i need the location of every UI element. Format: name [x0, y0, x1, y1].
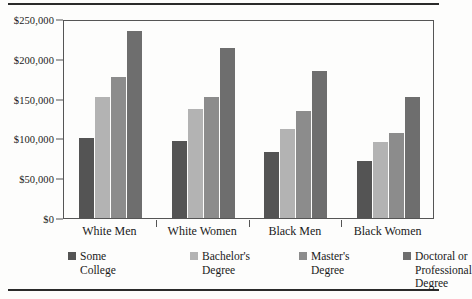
bar[interactable] [357, 161, 372, 218]
y-axis-tick-label: $200,000 [14, 54, 54, 65]
y-axis-tick-mark [56, 99, 63, 100]
y-axis-tick-mark [56, 139, 63, 140]
bar[interactable] [389, 133, 404, 218]
top-rule [8, 3, 439, 5]
x-axis: White MenWhite WomenBlack MenBlack Women [63, 220, 434, 242]
x-axis-group-label: White Women [168, 224, 237, 239]
bar[interactable] [373, 142, 388, 218]
bar[interactable] [405, 97, 420, 218]
x-axis-separator [249, 220, 250, 227]
bar[interactable] [204, 97, 219, 218]
x-axis-group-label: Black Women [354, 224, 422, 239]
legend-swatch-icon [68, 252, 76, 260]
legend-item[interactable]: Master's Degree [299, 250, 349, 277]
y-axis-tick-label: $100,000 [14, 134, 54, 145]
bar-group [250, 21, 343, 218]
bar[interactable] [79, 138, 94, 218]
bar[interactable] [312, 71, 327, 218]
x-axis-separator [341, 220, 342, 227]
bar[interactable] [296, 111, 311, 218]
bar-group [64, 21, 157, 218]
chart-legend: Some CollegeBachelor's DegreeMaster's De… [63, 250, 447, 286]
y-axis-tick-mark [56, 179, 63, 180]
legend-item-label: Master's Degree [311, 250, 349, 277]
y-axis-tick-mark [56, 219, 63, 220]
legend-item[interactable]: Some College [68, 250, 116, 277]
legend-item-label: Bachelor's Degree [202, 250, 250, 277]
legend-item[interactable]: Doctoral or Professional Degree [403, 250, 472, 291]
y-axis-tick-label: $250,000 [14, 15, 54, 26]
bar[interactable] [220, 48, 235, 218]
legend-swatch-icon [190, 252, 198, 260]
legend-swatch-icon [403, 252, 411, 260]
bar[interactable] [95, 97, 110, 218]
bar[interactable] [188, 109, 203, 218]
legend-item-label: Some College [80, 250, 116, 277]
legend-item[interactable]: Bachelor's Degree [190, 250, 250, 277]
bar-group [342, 21, 435, 218]
x-axis-group-label: White Men [82, 224, 136, 239]
bar[interactable] [172, 141, 187, 218]
bar-group [157, 21, 250, 218]
y-axis-tick-label: $0 [43, 214, 54, 225]
legend-item-label: Doctoral or Professional Degree [415, 250, 472, 291]
plot-area [63, 20, 434, 219]
y-axis-tick-mark [56, 20, 63, 21]
legend-swatch-icon [299, 252, 307, 260]
y-axis-tick-label: $150,000 [14, 94, 54, 105]
bar[interactable] [111, 77, 126, 218]
bottom-rule [8, 289, 439, 291]
x-axis-separator [156, 220, 157, 227]
y-axis: $0$50,000$100,000$150,000$200,000$250,00… [0, 20, 63, 219]
x-axis-group-label: Black Men [268, 224, 321, 239]
bar[interactable] [264, 152, 279, 218]
bars-layer [64, 21, 433, 218]
bar[interactable] [280, 129, 295, 218]
bar[interactable] [127, 31, 142, 218]
y-axis-tick-mark [56, 59, 63, 60]
y-axis-tick-label: $50,000 [19, 174, 54, 185]
